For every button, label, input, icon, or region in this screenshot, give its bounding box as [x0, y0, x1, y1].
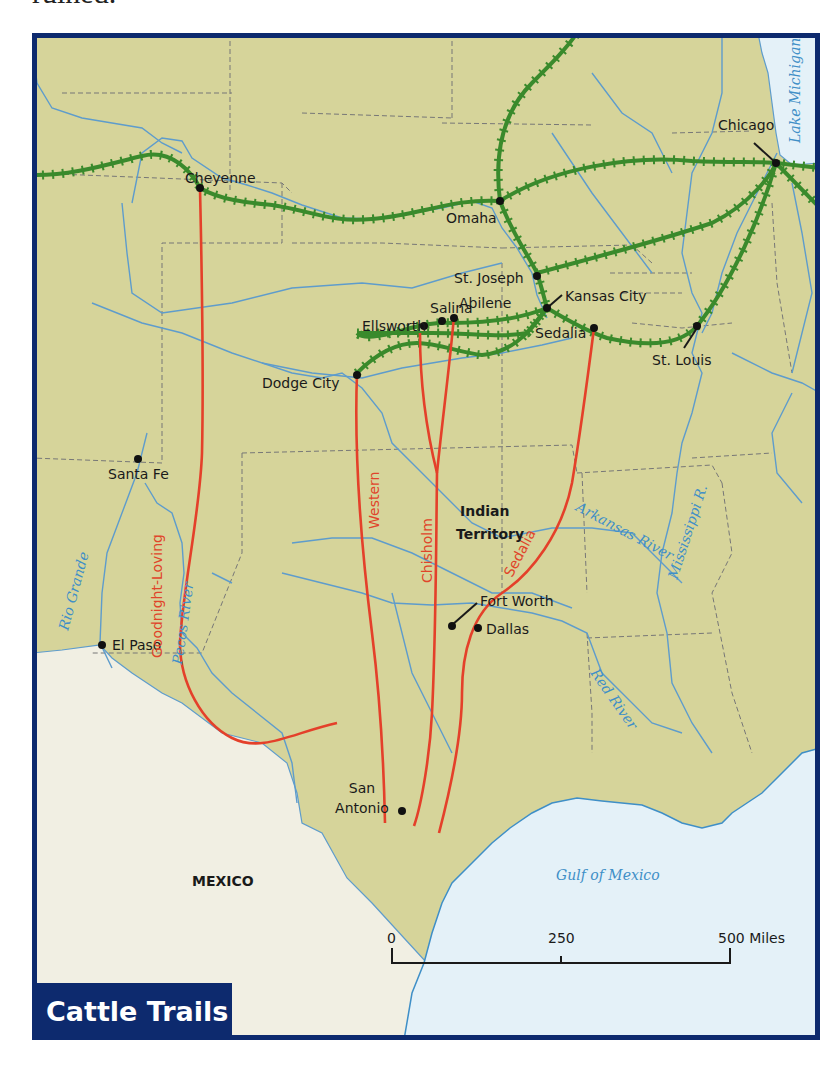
trail-label-chisholm: Chisholm [419, 518, 435, 583]
region-label-territory: Territory [456, 526, 524, 542]
sedalia-dot [590, 324, 598, 332]
city-label-cheyenne: Cheyenne [185, 170, 256, 186]
el-paso-dot [98, 641, 106, 649]
city-label-dodge-city: Dodge City [262, 375, 340, 391]
st-joseph-dot [533, 272, 541, 280]
preceding-text-fragment: ruined. [32, 0, 116, 10]
trail-label-western: Western [366, 472, 382, 529]
dallas-dot [474, 624, 482, 632]
city-label-chicago: Chicago [718, 117, 774, 133]
map-title-box: Cattle Trails [32, 983, 232, 1040]
cattle-trails-map: Chicago Cheyenne Omaha St. Joseph Kansas… [32, 33, 820, 1040]
city-label-fort-worth: Fort Worth [480, 593, 554, 609]
salina-dot [438, 317, 446, 325]
st-louis-dot [693, 322, 701, 330]
city-label-st-joseph: St. Joseph [454, 270, 524, 286]
city-label-abilene: Abilene [459, 295, 511, 311]
region-label-indian: Indian [460, 503, 509, 519]
city-label-omaha: Omaha [446, 210, 497, 226]
city-label-santa-fe: Santa Fe [108, 466, 169, 482]
city-label-sedalia: Sedalia [535, 325, 586, 341]
city-label-kansas-city: Kansas City [565, 288, 646, 304]
city-label-ellsworth: Ellsworth [362, 318, 426, 334]
scale-tick-250: 250 [548, 930, 575, 946]
city-label-st-louis: St. Louis [652, 352, 711, 368]
trail-label-goodnight-loving: Goodnight-Loving [149, 534, 165, 658]
scale-tick-500: 500 Miles [718, 930, 785, 946]
map-title: Cattle Trails [46, 996, 228, 1027]
water-label-lake-michigan: Lake Michigan [787, 38, 803, 144]
san-antonio-dot [398, 807, 406, 815]
fort-worth-dot [448, 622, 456, 630]
city-label-dallas: Dallas [486, 621, 529, 637]
chicago-dot [772, 159, 780, 167]
water-label-gulf-of-mexico: Gulf of Mexico [556, 867, 660, 883]
omaha-dot [496, 197, 504, 205]
dodge-city-dot [353, 371, 361, 379]
region-label-mexico: MEXICO [192, 873, 254, 889]
santa-fe-dot [134, 455, 142, 463]
scale-tick-0: 0 [387, 930, 396, 946]
kansas-city-dot [543, 304, 551, 312]
